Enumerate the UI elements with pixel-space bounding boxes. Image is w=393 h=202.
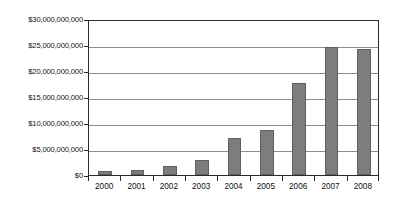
y-axis-tick-label: $15,000,000,000 <box>28 94 83 102</box>
bar-2005 <box>260 130 274 175</box>
x-axis-tick-mark <box>282 176 283 181</box>
x-axis-tick-label: 2000 <box>95 182 113 192</box>
bar-2006 <box>292 83 306 175</box>
y-axis-tick-label: $25,000,000,000 <box>28 42 83 50</box>
x-axis-tick-label: 2005 <box>257 182 275 192</box>
y-axis-tick-label: $5,000,000,000 <box>32 146 83 154</box>
x-axis-tick-mark <box>314 176 315 181</box>
bar-2007 <box>325 47 339 175</box>
bar-2003 <box>195 160 209 175</box>
y-axis-tick-label: $30,000,000,000 <box>28 16 83 24</box>
x-axis-tick-mark <box>250 176 251 181</box>
bars-group <box>89 21 378 175</box>
x-axis-tick-label: 2003 <box>192 182 210 192</box>
x-axis-tick-mark <box>378 176 379 181</box>
bar-2008 <box>357 49 371 175</box>
bar-2000 <box>98 171 112 175</box>
bar-chart-figure: $0$5,000,000,000$10,000,000,000$15,000,0… <box>0 0 393 202</box>
x-axis-tick-mark <box>217 176 218 181</box>
y-axis-tick-label: $0 <box>75 172 83 180</box>
bar-2004 <box>228 138 242 175</box>
y-axis-tick-label: $20,000,000,000 <box>28 68 83 76</box>
x-axis-tick-mark <box>153 176 154 181</box>
x-axis-tick-mark <box>185 176 186 181</box>
x-axis-tick-mark <box>120 176 121 181</box>
x-axis-tick-mark <box>88 176 89 181</box>
x-axis-tick-label: 2006 <box>289 182 307 192</box>
x-axis-tick-label: 2002 <box>160 182 178 192</box>
x-axis: 200020012002200320042005200620072008 <box>88 182 379 198</box>
x-axis-tick-mark <box>347 176 348 181</box>
bar-2001 <box>131 170 145 175</box>
x-axis-tick-label: 2008 <box>354 182 372 192</box>
plot-area <box>88 20 379 176</box>
x-axis-tick-label: 2004 <box>224 182 242 192</box>
y-axis-tick-label: $10,000,000,000 <box>28 120 83 128</box>
x-axis-tick-label: 2001 <box>127 182 145 192</box>
x-axis-ticks <box>88 176 379 181</box>
bar-2002 <box>163 166 177 175</box>
y-axis: $0$5,000,000,000$10,000,000,000$15,000,0… <box>0 0 88 202</box>
x-axis-tick-label: 2007 <box>321 182 339 192</box>
